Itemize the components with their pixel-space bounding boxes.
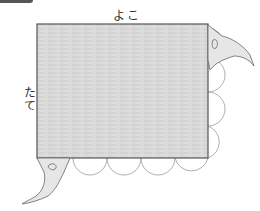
hand-bottom-left-icon xyxy=(22,158,70,204)
hand-top-right-icon xyxy=(208,25,254,70)
cloth-measuring-diagram xyxy=(0,0,260,211)
cloth-rectangle xyxy=(37,24,208,158)
bottom-scallops xyxy=(73,158,208,175)
